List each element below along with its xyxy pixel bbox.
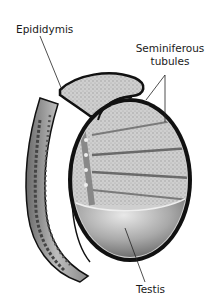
label-seminiferous-line2: tubules xyxy=(134,55,206,67)
label-testis: Testis xyxy=(136,283,165,295)
label-epididymis: Epididymis xyxy=(16,23,73,35)
label-seminiferous-line1: Seminiferous xyxy=(134,42,206,54)
